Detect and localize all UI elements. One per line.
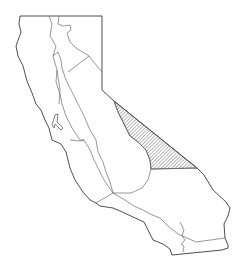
california-map xyxy=(0,0,247,266)
state-outline xyxy=(16,16,230,255)
